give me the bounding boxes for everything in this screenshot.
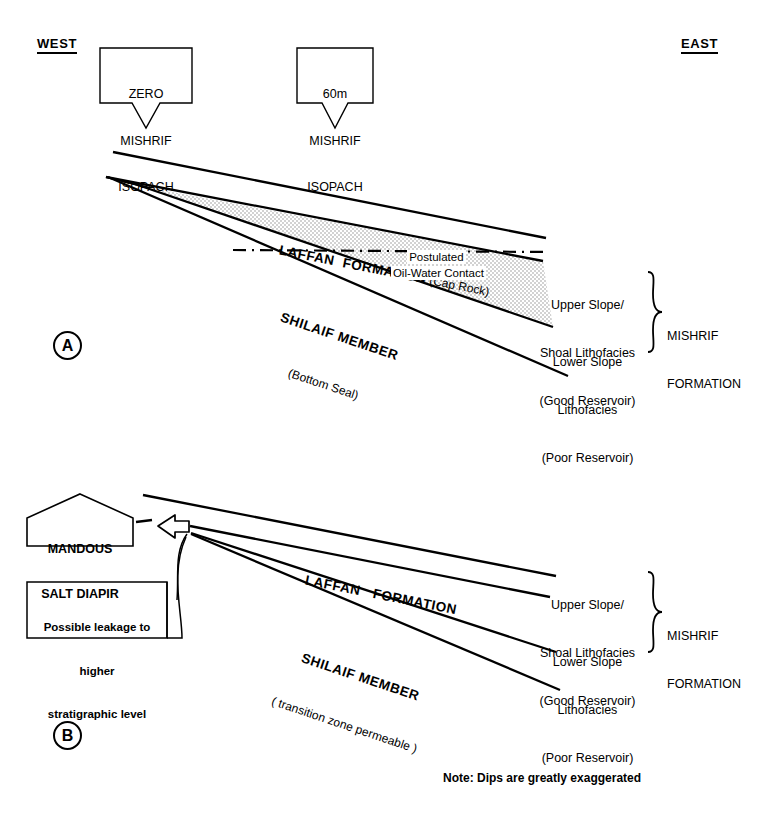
diapir-line1: MANDOUS	[27, 542, 133, 557]
callout-60m-line1: 60m	[297, 87, 373, 103]
diapir-dash-1	[136, 520, 152, 522]
facies-lower-b-line2: Lithofacies	[530, 702, 645, 718]
callout-60m-line3: ISOPACH	[297, 180, 373, 196]
panel-id-a: A	[53, 331, 82, 360]
east-label: EAST	[681, 36, 718, 54]
callout-zero-line3: ISOPACH	[100, 180, 192, 196]
callout-60m-isopach-text: 60m MISHRIF ISOPACH	[297, 56, 373, 227]
callout-zero-isopach-text: ZERO MISHRIF ISOPACH	[100, 56, 192, 227]
shilaif-member-text-b: SHILAIF MEMBER	[286, 646, 436, 709]
mishrif-formation-a-line2: FORMATION	[667, 376, 767, 392]
facies-lower-a-line2: Lithofacies	[530, 402, 645, 418]
facies-lower-a-line1: Lower Slope	[530, 354, 645, 370]
shilaif-member-text-a: SHILAIF MEMBER	[279, 310, 401, 363]
mishrif-formation-a: MISHRIF FORMATION	[667, 296, 767, 424]
leakage-arrow-icon	[158, 515, 189, 538]
shilaif-bottom-seal-text-a: (Bottom Seal)	[263, 358, 384, 410]
facies-lower-a-line3: (Poor Reservoir)	[530, 450, 645, 466]
leakage-line3: stratigraphic level	[27, 707, 167, 722]
figure-note: Note: Dips are greatly exaggerated	[443, 771, 641, 785]
callout-60m-line2: MISHRIF	[297, 134, 373, 150]
facies-lower-a: Lower Slope Lithofacies (Poor Reservoir)	[530, 322, 645, 498]
laffan-formation-text-b: LAFFAN FORMATION	[304, 573, 458, 618]
leakage-callout-text: Possible leakage to higher stratigraphic…	[27, 591, 167, 751]
mishrif-formation-a-line1: MISHRIF	[667, 328, 767, 344]
mishrif-brace-b	[648, 572, 662, 652]
panel-id-b: B	[53, 721, 82, 750]
owc-line2: Oil-Water Contact	[391, 266, 486, 280]
mishrif-formation-b-line2: FORMATION	[667, 676, 767, 692]
facies-lower-b-line1: Lower Slope	[530, 654, 645, 670]
leakage-line2: higher	[27, 664, 167, 679]
west-label: WEST	[37, 36, 77, 54]
figure-root: WEST EAST ZERO MISHRIF ISOPACH 60m MISHR…	[0, 0, 773, 813]
callout-zero-line2: MISHRIF	[100, 134, 192, 150]
oil-water-contact-label-2: Oil-Water Contact	[352, 252, 512, 294]
facies-upper-a-line1: Upper Slope/	[530, 297, 645, 313]
leakage-line1: Possible leakage to	[27, 620, 167, 635]
mishrif-brace-a	[648, 272, 662, 352]
mishrif-formation-b: MISHRIF FORMATION	[667, 596, 767, 724]
mishrif-formation-b-line1: MISHRIF	[667, 628, 767, 644]
facies-upper-b-line1: Upper Slope/	[530, 597, 645, 613]
callout-zero-line1: ZERO	[100, 87, 192, 103]
facies-lower-b-line3: (Poor Reservoir)	[530, 750, 645, 766]
shilaif-transition-text-b: ( transition zone permeable )	[270, 694, 419, 756]
